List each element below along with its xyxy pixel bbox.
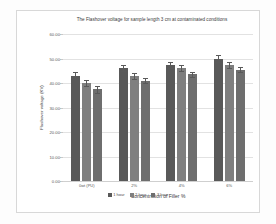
y-tick-label: 40.00 bbox=[50, 81, 60, 86]
bar[interactable] bbox=[188, 74, 197, 181]
error-bar-cap-top bbox=[168, 62, 173, 63]
error-bar-cap-bottom bbox=[238, 72, 243, 73]
bar[interactable] bbox=[82, 83, 91, 181]
error-bar-cap-top bbox=[95, 86, 100, 87]
legend-label: 2 hour bbox=[135, 192, 146, 197]
y-tick-label: 30.00 bbox=[50, 105, 60, 110]
chart-legend: 1 hour2 hour3 hour bbox=[0, 192, 276, 197]
bar-group: 4% bbox=[158, 34, 206, 181]
error-bar-cap-top bbox=[238, 67, 243, 68]
legend-swatch bbox=[151, 193, 155, 197]
bar[interactable] bbox=[225, 65, 234, 181]
error-bar-cap-bottom bbox=[179, 71, 184, 72]
error-bar-cap-bottom bbox=[190, 77, 195, 78]
bar-group: 0wt (PU) bbox=[63, 34, 111, 181]
error-bar-cap-bottom bbox=[121, 71, 126, 72]
legend-item[interactable]: 1 hour bbox=[108, 192, 125, 197]
error-bar-cap-top bbox=[216, 55, 221, 56]
bar[interactable] bbox=[166, 65, 175, 181]
error-bar-cap-bottom bbox=[168, 68, 173, 69]
bar[interactable] bbox=[177, 68, 186, 181]
y-tick-mark bbox=[60, 181, 63, 182]
error-bar bbox=[97, 86, 98, 93]
bar-group: 6% bbox=[206, 34, 254, 181]
bar[interactable] bbox=[71, 76, 80, 181]
plot-area: 0.0010.0020.0030.0040.0050.0060.000wt (P… bbox=[63, 34, 253, 181]
error-bar-cap-top bbox=[132, 73, 137, 74]
bar[interactable] bbox=[236, 70, 245, 181]
y-tick-label: 20.00 bbox=[50, 130, 60, 135]
x-axis-line bbox=[63, 181, 253, 182]
chart-screenshot: The Flashover voltage for sample length … bbox=[0, 0, 276, 224]
error-bar-cap-top bbox=[84, 80, 89, 81]
bar[interactable] bbox=[214, 59, 223, 182]
y-tick-label: 60.00 bbox=[50, 32, 60, 37]
legend-swatch bbox=[108, 193, 112, 197]
error-bar-cap-bottom bbox=[216, 62, 221, 63]
legend-swatch bbox=[130, 193, 134, 197]
error-bar-cap-bottom bbox=[95, 93, 100, 94]
error-bar-cap-top bbox=[121, 65, 126, 66]
bar[interactable] bbox=[93, 89, 102, 181]
chart-title: The Flashover voltage for sample length … bbox=[47, 16, 257, 23]
legend-item[interactable]: 3 hour bbox=[151, 192, 168, 197]
y-tick-label: 50.00 bbox=[50, 56, 60, 61]
error-bar-cap-bottom bbox=[84, 86, 89, 87]
x-tick-label: 4% bbox=[158, 183, 206, 188]
bar[interactable] bbox=[141, 81, 150, 181]
legend-label: 3 hour bbox=[157, 192, 168, 197]
error-bar-cap-bottom bbox=[132, 79, 137, 80]
bar-group: 2% bbox=[111, 34, 159, 181]
y-axis-title: Flashover voltage (KV) bbox=[39, 34, 49, 181]
x-tick-label: 0wt (PU) bbox=[63, 183, 111, 188]
error-bar-cap-top bbox=[179, 65, 184, 66]
error-bar-cap-bottom bbox=[227, 68, 232, 69]
legend-label: 1 hour bbox=[113, 192, 124, 197]
legend-item[interactable]: 2 hour bbox=[130, 192, 147, 197]
error-bar-cap-bottom bbox=[143, 83, 148, 84]
bar[interactable] bbox=[119, 68, 128, 181]
bar[interactable] bbox=[130, 76, 139, 181]
error-bar-cap-top bbox=[190, 72, 195, 73]
error-bar-cap-top bbox=[73, 72, 78, 73]
error-bar-cap-top bbox=[143, 78, 148, 79]
x-tick-label: 2% bbox=[111, 183, 159, 188]
error-bar-cap-top bbox=[227, 62, 232, 63]
y-tick-label: 10.00 bbox=[50, 154, 60, 159]
error-bar-cap-bottom bbox=[73, 79, 78, 80]
y-tick-label: 0.00 bbox=[52, 179, 60, 184]
chart-frame: The Flashover voltage for sample length … bbox=[16, 10, 260, 213]
x-tick-label: 6% bbox=[206, 183, 254, 188]
